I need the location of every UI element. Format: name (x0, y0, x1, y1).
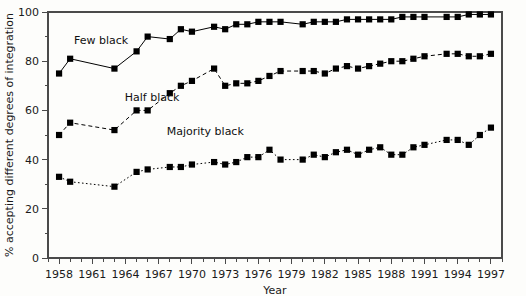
y-tick-label: 0 (32, 252, 39, 265)
data-point-marker (189, 78, 195, 84)
data-point-marker (488, 11, 494, 17)
data-point-marker (233, 21, 239, 27)
data-point-marker (266, 73, 272, 79)
series-line-majority-black (59, 128, 491, 187)
line-chart: 0204060801001958196119641967197019731976… (0, 0, 526, 296)
data-point-marker (466, 53, 472, 59)
data-point-marker (277, 19, 283, 25)
x-tick-label: 1997 (477, 268, 505, 281)
x-tick-label: 1976 (244, 268, 272, 281)
data-point-marker (355, 65, 361, 71)
data-point-marker (410, 14, 416, 20)
data-point-marker (222, 26, 228, 32)
y-tick-label: 40 (25, 154, 39, 167)
series-annotation-majority-black: Majority black (167, 125, 245, 138)
data-point-marker (421, 53, 427, 59)
data-point-marker (211, 65, 217, 71)
data-point-marker (56, 174, 62, 180)
data-point-marker (277, 68, 283, 74)
data-point-marker (167, 36, 173, 42)
data-point-marker (189, 29, 195, 35)
data-point-marker (333, 19, 339, 25)
data-point-marker (277, 157, 283, 163)
data-point-marker (222, 161, 228, 167)
plot-frame (48, 12, 502, 258)
data-point-marker (477, 53, 483, 59)
data-point-marker (255, 19, 261, 25)
data-point-marker (222, 83, 228, 89)
x-tick-label: 1958 (45, 268, 73, 281)
data-point-marker (244, 80, 250, 86)
data-point-marker (300, 68, 306, 74)
y-axis-title: % accepting different degrees of integra… (3, 13, 16, 257)
x-tick-label: 1970 (178, 268, 206, 281)
chart-figure: 0204060801001958196119641967197019731976… (0, 0, 526, 296)
data-point-marker (388, 16, 394, 22)
data-point-marker (421, 142, 427, 148)
data-point-marker (410, 144, 416, 150)
data-point-marker (211, 159, 217, 165)
data-point-marker (300, 157, 306, 163)
x-tick-label: 1979 (278, 268, 306, 281)
data-point-marker (333, 149, 339, 155)
x-tick-label: 1991 (410, 268, 438, 281)
data-point-marker (477, 132, 483, 138)
data-point-marker (399, 58, 405, 64)
data-point-marker (344, 16, 350, 22)
data-point-marker (56, 132, 62, 138)
data-point-marker (377, 144, 383, 150)
data-point-marker (322, 70, 328, 76)
series-annotation-half-black: Half black (125, 91, 180, 104)
x-tick-label: 1961 (78, 268, 106, 281)
y-tick-label: 100 (18, 6, 39, 19)
data-point-marker (133, 169, 139, 175)
x-tick-label: 1967 (145, 268, 173, 281)
data-point-marker (56, 70, 62, 76)
data-point-marker (300, 21, 306, 27)
data-point-marker (444, 14, 450, 20)
data-point-marker (444, 137, 450, 143)
data-point-marker (388, 58, 394, 64)
data-point-marker (455, 51, 461, 57)
x-tick-label: 1964 (112, 268, 140, 281)
data-point-marker (399, 152, 405, 158)
y-tick-label: 20 (25, 203, 39, 216)
data-point-marker (377, 16, 383, 22)
data-point-marker (266, 19, 272, 25)
data-point-marker (255, 78, 261, 84)
data-point-marker (355, 16, 361, 22)
data-point-marker (178, 26, 184, 32)
data-point-marker (311, 68, 317, 74)
y-tick-label: 60 (25, 104, 39, 117)
data-point-marker (322, 19, 328, 25)
data-point-marker (399, 14, 405, 20)
data-point-marker (67, 120, 73, 126)
data-point-marker (366, 16, 372, 22)
series-annotation-few-black: Few black (74, 34, 129, 47)
data-point-marker (377, 61, 383, 67)
data-point-marker (111, 184, 117, 190)
data-point-marker (145, 166, 151, 172)
data-point-marker (322, 154, 328, 160)
data-point-marker (178, 164, 184, 170)
data-point-marker (333, 65, 339, 71)
data-point-marker (455, 14, 461, 20)
x-tick-label: 1994 (444, 268, 472, 281)
data-point-marker (466, 142, 472, 148)
data-point-marker (488, 125, 494, 131)
data-point-marker (111, 127, 117, 133)
data-point-marker (444, 51, 450, 57)
data-point-marker (355, 152, 361, 158)
x-axis-title: Year (262, 284, 287, 296)
data-point-marker (344, 147, 350, 153)
data-point-marker (255, 154, 261, 160)
data-point-marker (189, 161, 195, 167)
data-point-marker (366, 147, 372, 153)
data-point-marker (233, 159, 239, 165)
data-point-marker (311, 152, 317, 158)
data-point-marker (145, 34, 151, 40)
x-tick-label: 1973 (211, 268, 239, 281)
data-point-marker (311, 19, 317, 25)
data-point-marker (233, 80, 239, 86)
data-point-marker (421, 14, 427, 20)
